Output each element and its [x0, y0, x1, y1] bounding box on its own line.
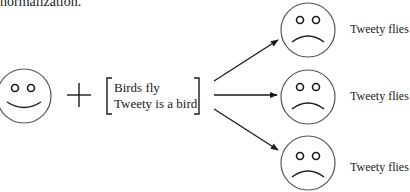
- premise-tweety-is-a-bird: Tweety is a bird: [114, 96, 198, 111]
- sad-face-icon: [281, 70, 335, 124]
- outcome-1: Tweety flies: [281, 3, 409, 57]
- arrow-to-outcome-3: [214, 109, 278, 150]
- outcome-3: Tweety flies: [281, 136, 409, 190]
- premise-birds-fly: Birds fly: [114, 80, 160, 95]
- plus-icon: [67, 83, 91, 107]
- sad-face-icon: [281, 136, 335, 190]
- outcome-2: Tweety flies: [281, 70, 409, 124]
- outcome-label: Tweety flies: [350, 22, 409, 36]
- reasoning-diagram: Birds fly Tweety is a bird Tweety flies …: [0, 0, 410, 192]
- premises-bracket: Birds fly Tweety is a bird: [107, 78, 199, 114]
- sad-face-icon: [281, 3, 335, 57]
- arrow-to-outcome-1: [214, 40, 278, 81]
- smiley-face-icon: [0, 69, 51, 123]
- outcome-label: Tweety flies: [350, 89, 409, 103]
- outcome-label: Tweety flies: [350, 160, 409, 174]
